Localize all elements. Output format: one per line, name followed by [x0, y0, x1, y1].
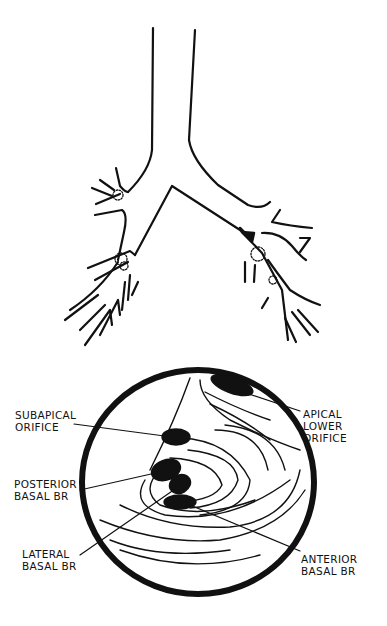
- label-apical-lower-orifice: APICAL LOWER ORIFICE: [303, 408, 347, 444]
- bronchoscopic-view-diagram: [0, 0, 387, 626]
- label-lateral-basal-br: LATERAL BASAL BR: [22, 548, 77, 572]
- anterior-basal-orifice: [164, 495, 196, 509]
- label-anterior-basal-br: ANTERIOR BASAL BR: [301, 553, 357, 577]
- leader-subapical: [74, 424, 172, 437]
- label-subapical-orifice: SUBAPICAL ORIFICE: [15, 409, 76, 433]
- leader-anterior: [190, 505, 300, 551]
- subapical-orifice: [162, 429, 190, 445]
- leader-posterior: [80, 472, 160, 490]
- label-posterior-basal-br: POSTERIOR BASAL BR: [14, 478, 77, 502]
